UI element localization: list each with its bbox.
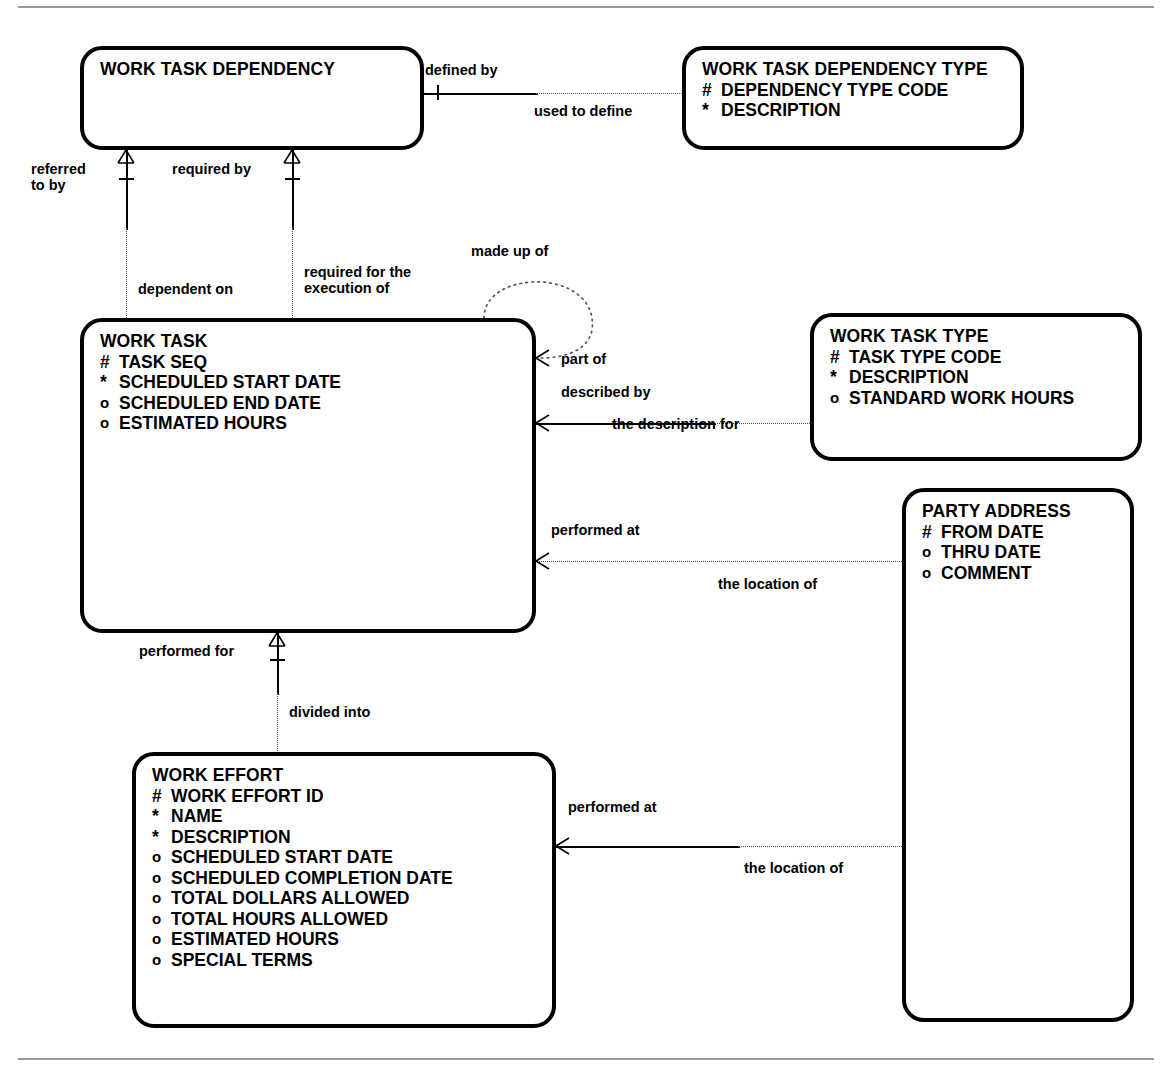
attribute-name: SCHEDULED END DATE [119,393,321,414]
entity-work-effort[interactable]: WORK EFFORT # WORK EFFORT ID * NAME * DE… [132,752,556,1028]
crowsfoot-part-of [536,350,549,366]
connector-defined-by-solid [424,93,538,95]
relationship-label-required-by: required by [172,161,251,177]
attribute-mark: o [152,868,171,889]
attribute-mark: # [152,786,171,807]
connector-performed-at-effort-solid [556,846,740,848]
attribute-row: * DESCRIPTION [702,100,1020,121]
attribute-name: DESCRIPTION [171,827,291,848]
entity-work-task-dependency-type[interactable]: WORK TASK DEPENDENCY TYPE # DEPENDENCY T… [682,46,1024,150]
attribute-mark: o [100,393,119,414]
attribute-name: WORK EFFORT ID [171,786,324,807]
attribute-list: # DEPENDENCY TYPE CODE * DESCRIPTION [702,80,1020,121]
one-tick-defined-by [437,85,439,100]
entity-name: WORK EFFORT [152,765,552,786]
connector-dependent-on-dotted [126,228,127,320]
entity-name: WORK TASK [100,331,532,352]
attribute-name: SCHEDULED START DATE [171,847,393,868]
connector-required-for-execution-dotted [292,228,293,320]
attribute-row: o SCHEDULED END DATE [100,393,532,414]
top-divider-rule [18,6,1154,8]
attribute-mark: o [152,929,171,950]
attribute-name: TOTAL HOURS ALLOWED [171,909,388,930]
connector-performed-for-solid [277,633,279,695]
entity-work-task-type[interactable]: WORK TASK TYPE # TASK TYPE CODE * DESCRI… [810,313,1142,461]
attribute-mark: * [702,100,721,121]
relationship-label-the-location-of-effort: the location of [744,860,843,876]
entity-name: PARTY ADDRESS [922,501,1130,522]
attribute-mark: o [152,888,171,909]
attribute-row: o STANDARD WORK HOURS [830,388,1138,409]
attribute-mark: * [100,372,119,393]
bottom-divider-rule [18,1058,1154,1060]
attribute-list: # TASK SEQ * SCHEDULED START DATE o SCHE… [100,352,532,434]
attribute-row: # FROM DATE [922,522,1130,543]
attribute-name: SCHEDULED COMPLETION DATE [171,868,453,889]
attribute-mark: # [830,347,849,368]
attribute-name: NAME [171,806,223,827]
attribute-row: * DESCRIPTION [152,827,552,848]
relationship-label-performed-at-effort: performed at [568,799,657,815]
attribute-mark: o [830,388,849,409]
attribute-mark: o [922,563,941,584]
connector-used-to-define-dotted [536,93,682,94]
attribute-row: o COMMENT [922,563,1130,584]
attribute-row: o ESTIMATED HOURS [100,413,532,434]
attribute-name: SCHEDULED START DATE [119,372,341,393]
attribute-row: o TOTAL DOLLARS ALLOWED [152,888,552,909]
one-tick-performed-for [270,659,285,661]
relationship-label-divided-into: divided into [289,704,370,720]
relationship-label-required-for-the-execution-of: required for the execution of [304,264,411,296]
attribute-row: # TASK SEQ [100,352,532,373]
attribute-row: * SCHEDULED START DATE [100,372,532,393]
attribute-name: DESCRIPTION [721,100,841,121]
connector-performed-at-task-dotted [536,561,906,562]
attribute-name: TOTAL DOLLARS ALLOWED [171,888,410,909]
one-tick-referred-to-by [119,178,134,180]
attribute-mark: # [922,522,941,543]
attribute-row: * DESCRIPTION [830,367,1138,388]
attribute-mark: o [100,413,119,434]
attribute-row: # DEPENDENCY TYPE CODE [702,80,1020,101]
attribute-list: # FROM DATE o THRU DATE o COMMENT [922,522,1130,584]
attribute-name: TASK SEQ [119,352,207,373]
connector-divided-into-dotted [277,693,278,753]
attribute-mark: # [100,352,119,373]
attribute-row: o THRU DATE [922,542,1130,563]
attribute-name: COMMENT [941,563,1031,584]
attribute-mark: * [152,806,171,827]
attribute-mark: o [152,950,171,971]
relationship-label-used-to-define: used to define [534,103,632,119]
attribute-row: # WORK EFFORT ID [152,786,552,807]
relationship-label-the-location-of-task: the location of [718,576,817,592]
attribute-row: o SPECIAL TERMS [152,950,552,971]
attribute-mark: o [922,542,941,563]
relationship-label-dependent-on: dependent on [138,281,233,297]
entity-work-task[interactable]: WORK TASK # TASK SEQ * SCHEDULED START D… [80,318,536,633]
attribute-name: ESTIMATED HOURS [171,929,339,950]
attribute-mark: * [152,827,171,848]
attribute-row: o SCHEDULED COMPLETION DATE [152,868,552,889]
entity-party-address[interactable]: PARTY ADDRESS # FROM DATE o THRU DATE o … [902,488,1134,1022]
relationship-label-made-up-of: made up of [471,243,548,259]
connector-required-by-solid [292,150,294,230]
relationship-label-part-of: part of [561,351,606,367]
entity-name: WORK TASK DEPENDENCY TYPE [702,59,1020,80]
entity-work-task-dependency[interactable]: WORK TASK DEPENDENCY [80,46,424,150]
attribute-name: THRU DATE [941,542,1041,563]
attribute-name: SPECIAL TERMS [171,950,313,971]
attribute-row: o SCHEDULED START DATE [152,847,552,868]
attribute-name: STANDARD WORK HOURS [849,388,1074,409]
attribute-mark: o [152,909,171,930]
attribute-list: # WORK EFFORT ID * NAME * DESCRIPTION o … [152,786,552,971]
attribute-row: o ESTIMATED HOURS [152,929,552,950]
relationship-label-performed-for: performed for [139,643,234,659]
one-tick-required-by [285,178,300,180]
attribute-name: DESCRIPTION [849,367,969,388]
diagram-canvas: WORK TASK DEPENDENCY WORK TASK DEPENDENC… [0,0,1172,1076]
attribute-name: TASK TYPE CODE [849,347,1001,368]
connector-referred-to-by-solid [126,150,128,230]
attribute-name: FROM DATE [941,522,1044,543]
relationship-label-performed-at-task: performed at [551,522,640,538]
relationship-label-referred-to-by: referred to by [31,161,86,193]
